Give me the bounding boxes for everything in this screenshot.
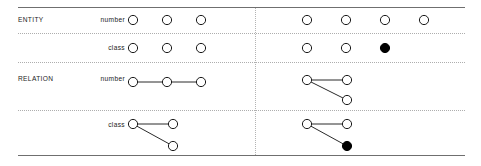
glyph-cell xyxy=(302,119,351,150)
group-label: RELATION xyxy=(18,76,53,83)
row-label: number xyxy=(80,76,125,83)
open-node xyxy=(196,77,205,86)
filled-node xyxy=(380,43,389,52)
figure-canvas: ENTITYnumberclassRELATIONnumberclass xyxy=(0,0,481,166)
glyph-cell xyxy=(128,119,177,150)
row-label: class xyxy=(80,45,125,52)
open-node xyxy=(380,15,389,24)
open-node xyxy=(342,75,351,84)
open-node xyxy=(128,77,137,86)
open-node xyxy=(162,43,171,52)
row-separator xyxy=(18,33,465,34)
open-node xyxy=(302,43,311,52)
open-node xyxy=(162,77,171,86)
group-label: ENTITY xyxy=(18,17,44,24)
open-node xyxy=(419,15,428,24)
graph-edge xyxy=(311,82,343,98)
glyph-cell xyxy=(128,15,205,24)
glyph-cell xyxy=(128,43,205,52)
graph-edge xyxy=(311,126,343,144)
graph-edge xyxy=(137,126,169,144)
open-node xyxy=(128,15,137,24)
open-node xyxy=(342,119,351,128)
open-node xyxy=(302,75,311,84)
open-node xyxy=(128,43,137,52)
row-label: number xyxy=(80,17,125,24)
glyph-cell xyxy=(128,77,205,86)
open-node xyxy=(302,15,311,24)
filled-node xyxy=(342,141,351,150)
open-node xyxy=(128,119,137,128)
row-label: class xyxy=(80,122,125,129)
open-node xyxy=(341,43,350,52)
node-link-layer xyxy=(0,0,481,166)
row-separator xyxy=(18,62,465,63)
open-node xyxy=(168,119,177,128)
glyph-cell xyxy=(302,15,428,24)
open-node xyxy=(196,43,205,52)
row-separator xyxy=(18,110,465,111)
open-node xyxy=(196,15,205,24)
glyph-cell xyxy=(302,43,389,52)
top-rule xyxy=(18,7,465,8)
open-node xyxy=(162,15,171,24)
open-node xyxy=(302,119,311,128)
open-node xyxy=(168,141,177,150)
column-divider xyxy=(255,8,256,155)
glyph-cell xyxy=(302,75,351,104)
open-node xyxy=(341,15,350,24)
bottom-rule xyxy=(18,155,465,156)
open-node xyxy=(342,95,351,104)
